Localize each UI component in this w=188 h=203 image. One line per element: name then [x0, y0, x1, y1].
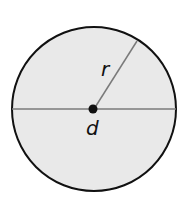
diameter-label: d	[86, 116, 99, 140]
center-dot	[89, 105, 98, 114]
circle-diagram: r d	[0, 0, 188, 203]
